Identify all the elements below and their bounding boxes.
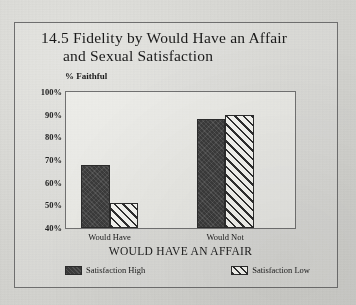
legend-label-low: Satisfaction Low (252, 265, 310, 275)
legend-item-satisfaction-low: Satisfaction Low (231, 265, 310, 275)
legend-item-satisfaction-high: Satisfaction High (65, 265, 145, 275)
plot-area: 100% 90% 80% 70% 60% 50% 40% Would Have … (65, 91, 296, 229)
x-tick-label-would-not: Would Not (206, 232, 243, 242)
chart-legend: Satisfaction High Satisfaction Low (65, 265, 310, 275)
chart-title: 14.5 Fidelity by Would Have an Affair an… (41, 29, 321, 65)
figure-box: 14.5 Fidelity by Would Have an Affair an… (14, 22, 338, 288)
y-tick-label: 60% (45, 178, 62, 188)
y-tick-label: 40% (45, 223, 62, 233)
chart-title-line1: 14.5 Fidelity by Would Have an Affair (41, 29, 287, 46)
y-tick-label: 50% (45, 200, 62, 210)
x-axis-title: WOULD HAVE AN AFFAIR (65, 245, 296, 257)
bar-would-not-satisfaction-high (197, 119, 226, 228)
y-axis-label: % Faithful (65, 71, 107, 81)
y-tick-label: 100% (41, 87, 62, 97)
chart-title-line2: and Sexual Satisfaction (41, 47, 321, 65)
bar-would-have-satisfaction-low (110, 203, 139, 228)
legend-swatch-icon-low (231, 266, 248, 275)
legend-swatch-icon-high (65, 266, 82, 275)
y-tick-label: 80% (45, 132, 62, 142)
y-tick-label: 70% (45, 155, 62, 165)
y-tick-label: 90% (45, 110, 62, 120)
x-tick-label-would-have: Would Have (88, 232, 131, 242)
bar-would-not-satisfaction-low (225, 115, 254, 228)
legend-label-high: Satisfaction High (86, 265, 145, 275)
bar-would-have-satisfaction-high (81, 165, 110, 228)
